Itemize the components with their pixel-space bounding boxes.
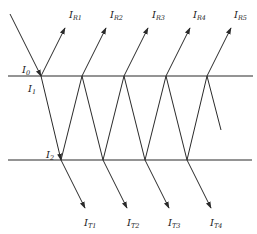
internal-ray-down-2 xyxy=(82,76,103,160)
label-t1: IT1 xyxy=(83,217,96,230)
label-r1: IR1 xyxy=(68,9,82,22)
reflected-ray-2 xyxy=(82,28,106,76)
label-t4: IT4 xyxy=(209,217,222,230)
internal-ray-down-3 xyxy=(124,76,145,160)
internal-ray-down-4 xyxy=(166,76,187,160)
internal-ray-down-1 xyxy=(41,76,61,160)
reflected-ray-5 xyxy=(207,28,231,76)
transmitted-ray-2 xyxy=(103,160,127,208)
transmitted-ray-3 xyxy=(145,160,169,208)
transmitted-ray-1 xyxy=(61,160,85,208)
reflected-ray-4 xyxy=(166,28,190,76)
label-t3: IT3 xyxy=(167,217,180,230)
label-r5: IR5 xyxy=(233,9,247,22)
reflected-ray-3 xyxy=(124,28,148,76)
internal-ray-down-5 xyxy=(207,76,221,130)
internal-ray-up-4 xyxy=(187,76,207,160)
label-t2: IT2 xyxy=(126,217,139,230)
label-r2: IR2 xyxy=(109,9,123,22)
label-r4: IR4 xyxy=(192,9,206,22)
reflection-diagram: I0 I1 I2 IR1 IR2 IR3 IR4 IR5 IT1 IT2 IT3… xyxy=(0,0,257,234)
internal-ray-up-2 xyxy=(103,76,124,160)
internal-ray-up-3 xyxy=(145,76,166,160)
reflected-ray-1 xyxy=(41,28,65,76)
transmitted-ray-4 xyxy=(187,160,211,208)
internal-ray-up-1 xyxy=(61,76,82,160)
label-i1: I1 xyxy=(27,83,36,96)
label-r3: IR3 xyxy=(151,9,165,22)
label-i0: I0 xyxy=(21,64,30,77)
